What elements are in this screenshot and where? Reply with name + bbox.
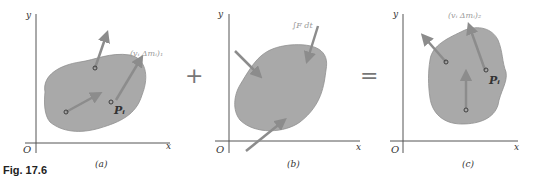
panel-a — [25, 14, 170, 153]
figure-canvas: y x O (vᵢ Δmᵢ)₁ Pᵢ (a) + y x O ∫F dt (b)… — [0, 0, 539, 183]
y-axis-label: y — [392, 9, 399, 19]
vector-label: (vᵢ Δmᵢ)₁ — [130, 49, 163, 58]
panel-label: (c) — [462, 159, 475, 169]
point-label: Pᵢ — [488, 74, 500, 87]
panel-label: (b) — [287, 159, 300, 169]
plus-operator: + — [185, 63, 203, 88]
panel-label: (a) — [95, 159, 108, 169]
rigid-body — [235, 45, 327, 131]
vector-label: ∫F dt — [292, 21, 313, 30]
panel-b — [215, 14, 360, 153]
equals-operator: = — [360, 63, 378, 88]
origin-label: O — [391, 144, 399, 155]
origin-label: O — [216, 144, 224, 155]
vector-label: (vᵢ Δmᵢ)₂ — [448, 11, 481, 20]
figure-caption: Fig. 17.6 — [3, 164, 47, 176]
x-axis-label: x — [514, 142, 519, 152]
point-label: Pᵢ — [113, 104, 125, 117]
origin-label: O — [23, 144, 31, 155]
y-axis-label: y — [217, 9, 224, 19]
x-axis-label: x — [166, 141, 171, 151]
y-axis-label: y — [25, 10, 32, 20]
x-axis-label: x — [356, 142, 361, 152]
